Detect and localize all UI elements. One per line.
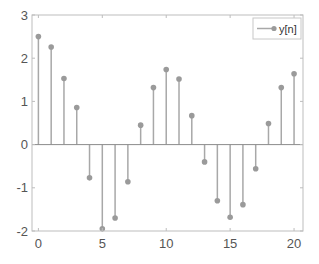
stem-marker [253, 166, 259, 172]
stem-chart: 05101520 3210-1-2 y[n] [0, 0, 319, 264]
x-tick-label: 10 [159, 236, 173, 251]
stem-marker [227, 214, 233, 220]
stem-marker [266, 121, 272, 127]
stem-marker [151, 85, 157, 91]
stem-marker [176, 76, 182, 82]
stem-marker [36, 34, 42, 40]
stem-marker [74, 105, 80, 111]
stem-marker [240, 202, 246, 208]
y-tick-label: 2 [21, 51, 28, 66]
legend-marker-icon [271, 26, 276, 31]
x-tick-label: 5 [99, 236, 106, 251]
stem-marker [278, 85, 284, 91]
legend: y[n] [253, 18, 301, 39]
x-tick-label: 15 [223, 236, 237, 251]
legend-label: y[n] [279, 23, 297, 35]
plot-background [32, 15, 303, 231]
stem-marker [291, 71, 297, 77]
stem-marker [48, 44, 54, 50]
y-tick-label: 1 [21, 94, 28, 109]
x-tick-label: 0 [35, 236, 42, 251]
stem-marker [202, 159, 208, 165]
stem-marker [61, 76, 67, 82]
stem-marker [125, 179, 131, 185]
stem-marker [215, 198, 221, 204]
y-tick-label: -2 [16, 224, 28, 239]
y-tick-label: 0 [21, 137, 28, 152]
x-tick-label: 20 [287, 236, 301, 251]
stem-marker [112, 215, 118, 221]
y-tick-label: -1 [16, 180, 28, 195]
y-tick-label: 3 [21, 8, 28, 23]
stem-marker [163, 67, 169, 73]
stem-marker [138, 122, 144, 128]
stem-marker [87, 175, 93, 181]
stem-marker [189, 113, 195, 119]
